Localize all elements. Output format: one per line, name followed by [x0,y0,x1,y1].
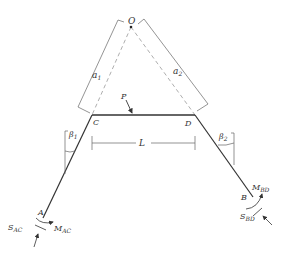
label-l: L [138,138,145,148]
label-s-ac: SAC [8,223,23,233]
label-d: D [184,119,192,128]
label-b: B [240,193,247,202]
member-ac [43,115,92,218]
dashed-line-od [131,27,195,115]
a2-dimension [138,19,208,111]
label-beta2: β2 [218,132,228,142]
point-o-dot [130,26,133,29]
dashed-line-oc [92,27,131,115]
label-m-ac: MAC [53,224,72,234]
label-beta1: β1 [68,130,77,140]
label-p: P [120,92,127,101]
label-c: C [93,118,99,127]
a1-dimension [78,20,124,113]
label-a1: a1 [92,70,101,81]
label-m-bd: MBD [251,183,270,193]
load-p-arrow [126,100,132,113]
frame-diagram: O C D A B P L a1 a2 β1 β2 SAC MAC MBD SB… [0,0,287,261]
label-o: O [128,16,136,26]
member-bd [195,115,253,197]
end-a-forces [34,218,53,247]
label-s-bd: SBD [240,212,255,222]
label-a: A [37,208,44,217]
